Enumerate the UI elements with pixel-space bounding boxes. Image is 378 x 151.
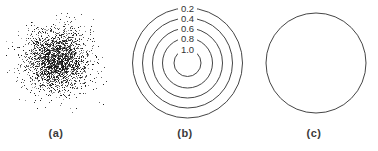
panel-b-contour: 0.20.40.60.81.0 (b) [126, 0, 252, 151]
panel-c-circle: (c) [252, 0, 378, 151]
figure: (a) 0.20.40.60.81.0 (b) (c) [0, 0, 378, 151]
contour-label: 1.0 [181, 44, 194, 55]
circle-plot [252, 0, 378, 125]
panel-c-caption: (c) [307, 127, 322, 139]
scatter-canvas [0, 0, 126, 125]
contour-plot: 0.20.40.60.81.0 [126, 0, 252, 125]
contour-label: 0.8 [181, 33, 194, 44]
panel-a-caption: (a) [49, 127, 64, 139]
panel-b-caption: (b) [177, 127, 193, 139]
panel-a-scatter: (a) [0, 0, 126, 151]
